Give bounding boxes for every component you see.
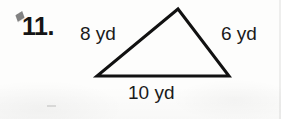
triangle-outline [97,9,229,76]
geometry-figure: 11. 8 yd 6 yd 10 yd [0,0,281,119]
side-label-base: 10 yd [128,83,174,102]
side-label-left: 8 yd [80,24,116,43]
side-label-right: 6 yd [221,24,257,43]
